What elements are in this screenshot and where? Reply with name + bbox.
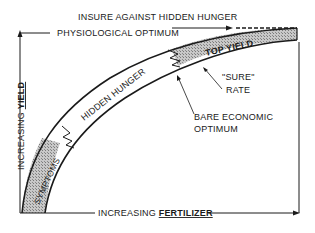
y-axis-label-key: YIELD bbox=[16, 81, 26, 109]
x-axis-label-key: FERTILIZER bbox=[159, 208, 213, 218]
hidden-hunger-label: HIDDEN HUNGER bbox=[79, 66, 147, 122]
bare-optimum-label-2: OPTIMUM bbox=[194, 124, 238, 134]
bare-optimum-label-1: BARE ECONOMIC bbox=[194, 112, 273, 122]
symptoms-boundary-zigzag bbox=[62, 126, 74, 148]
sure-rate-leader-line bbox=[204, 68, 222, 89]
svg-text:INCREASING YIELD: INCREASING YIELD bbox=[16, 81, 26, 170]
insure-label: INSURE AGAINST HIDDEN HUNGER bbox=[78, 12, 238, 22]
sure-rate-label-2: RATE bbox=[226, 85, 250, 95]
sure-rate-label-1: "SURE" bbox=[222, 72, 255, 82]
x-axis-label-prefix: INCREASING bbox=[98, 208, 159, 218]
lower-yield-curve bbox=[45, 40, 297, 213]
bare-optimum-leader-line bbox=[178, 77, 194, 114]
fertilizer-yield-diagram: INSURE AGAINST HIDDEN HUNGER PHYSIOLOGIC… bbox=[0, 0, 315, 233]
y-axis-label: INCREASING YIELD bbox=[16, 81, 26, 170]
y-axis-label-prefix: INCREASING bbox=[16, 109, 26, 170]
x-axis-label: INCREASING FERTILIZER bbox=[98, 208, 213, 218]
physiological-optimum-arrow-icon bbox=[226, 26, 233, 31]
physiological-optimum-label: PHYSIOLOGICAL OPTIMUM bbox=[57, 28, 179, 38]
